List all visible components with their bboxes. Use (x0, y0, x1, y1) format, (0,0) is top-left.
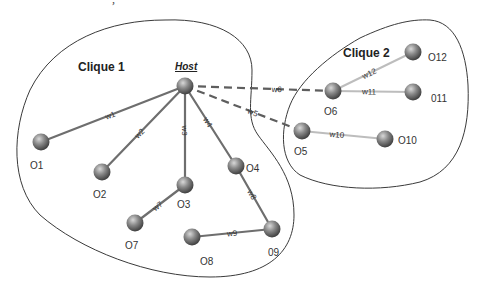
node-o5 (294, 123, 311, 140)
edge-label-w1: w1 (103, 109, 117, 122)
clique-1-title: Clique 1 (78, 60, 125, 74)
edge-w6 (185, 86, 333, 91)
clique-1-boundary (17, 20, 294, 277)
node-label-o5: O5 (294, 146, 308, 157)
node-host (177, 78, 194, 95)
node-label-o3: O3 (177, 199, 191, 210)
node-label-o7: O7 (125, 240, 139, 251)
node-label-o11: 011 (431, 93, 447, 104)
node-o3 (177, 177, 194, 194)
node-o4 (228, 158, 245, 175)
node-o7 (127, 215, 144, 232)
edge-label-w3: w3 (180, 124, 189, 136)
node-label-o9: 09 (268, 247, 280, 258)
node-label-o2: O2 (93, 189, 107, 200)
node-label-o6: O6 (324, 106, 338, 117)
node-o10 (377, 131, 394, 148)
node-label-o10: O10 (398, 135, 417, 146)
edge-label-w6: w6 (270, 85, 282, 94)
clique-2-title: Clique 2 (343, 46, 390, 60)
cropped-caption-fragment: , (112, 0, 115, 6)
edge-w5 (185, 86, 302, 131)
clique-network-diagram: , w1w2w3w4w5w6w7w8w9w10w11w12 O1O2O3O4O5… (0, 0, 479, 289)
node-label-o1: O1 (30, 160, 44, 171)
node-label-o4: O4 (246, 163, 260, 174)
node-o6 (325, 83, 342, 100)
edge-label-w11: w11 (361, 87, 377, 96)
host-title: Host (175, 61, 198, 72)
node-o1 (33, 134, 50, 151)
node-o2 (94, 164, 111, 181)
node-label-o8: O8 (200, 256, 214, 267)
edge-label-w9: w9 (226, 228, 239, 238)
edge-label-w10: w10 (328, 130, 345, 141)
edges (41, 52, 413, 237)
edge-label-w12: w12 (360, 66, 379, 81)
node-o9 (264, 221, 281, 238)
node-o8 (184, 229, 201, 246)
node-o12 (405, 44, 422, 61)
edge-w2 (102, 86, 185, 172)
edge-label-w5: w5 (245, 106, 259, 119)
node-o11 (405, 84, 422, 101)
node-label-o12: O12 (428, 52, 447, 63)
